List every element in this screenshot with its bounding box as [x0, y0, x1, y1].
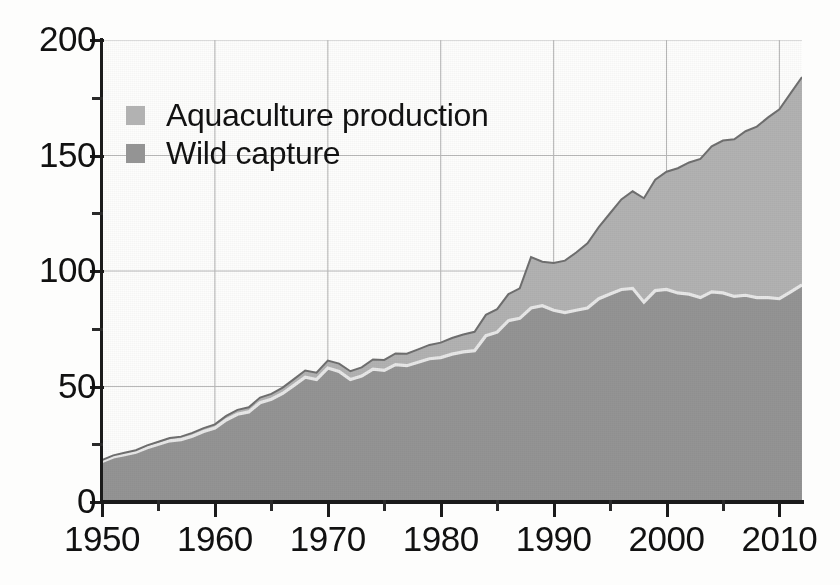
x-tick-major	[778, 500, 781, 517]
x-tick-major	[214, 500, 217, 517]
x-tick-label: 1980	[376, 519, 506, 559]
y-tick-minor	[92, 212, 103, 215]
x-tick-major	[327, 500, 330, 517]
legend-swatch-aquaculture-icon	[126, 106, 145, 125]
x-tick-major	[440, 500, 443, 517]
x-tick-minor	[722, 500, 725, 511]
x-tick-major	[101, 500, 104, 517]
legend-swatch-wild-capture-icon	[126, 144, 145, 163]
x-tick-label: 2010	[714, 519, 840, 559]
y-tick-label: 50	[12, 368, 96, 403]
x-tick-label: 1990	[489, 519, 619, 559]
y-tick-label: 0	[12, 483, 96, 518]
legend-label-aquaculture: Aquaculture production	[166, 98, 489, 132]
chart-legend: Aquaculture production Wild capture	[126, 96, 489, 172]
x-tick-label: 1960	[150, 519, 280, 559]
x-tick-minor	[496, 500, 499, 511]
x-tick-major	[666, 500, 669, 517]
fish-production-area-chart: 050100150200 195019601970198019902000201…	[0, 0, 840, 585]
x-tick-label: 1950	[37, 519, 167, 559]
y-axis-ticks: 050100150200	[0, 0, 96, 585]
y-tick-minor	[92, 443, 103, 446]
x-tick-major	[553, 500, 556, 517]
y-tick-label: 150	[12, 137, 96, 172]
y-tick-minor	[92, 328, 103, 331]
area-wild-capture	[102, 285, 802, 502]
y-tick-minor	[92, 97, 103, 100]
legend-item-wild-capture[interactable]: Wild capture	[126, 134, 489, 172]
x-tick-minor	[270, 500, 273, 511]
x-axis-line	[100, 500, 804, 504]
y-tick-label: 100	[12, 252, 96, 287]
x-tick-label: 2000	[602, 519, 732, 559]
legend-label-wild-capture: Wild capture	[166, 136, 340, 170]
x-tick-minor	[383, 500, 386, 511]
y-tick-label: 200	[12, 21, 96, 56]
x-tick-minor	[609, 500, 612, 511]
legend-item-aquaculture[interactable]: Aquaculture production	[126, 96, 489, 134]
x-tick-minor	[157, 500, 160, 511]
x-tick-label: 1970	[263, 519, 393, 559]
